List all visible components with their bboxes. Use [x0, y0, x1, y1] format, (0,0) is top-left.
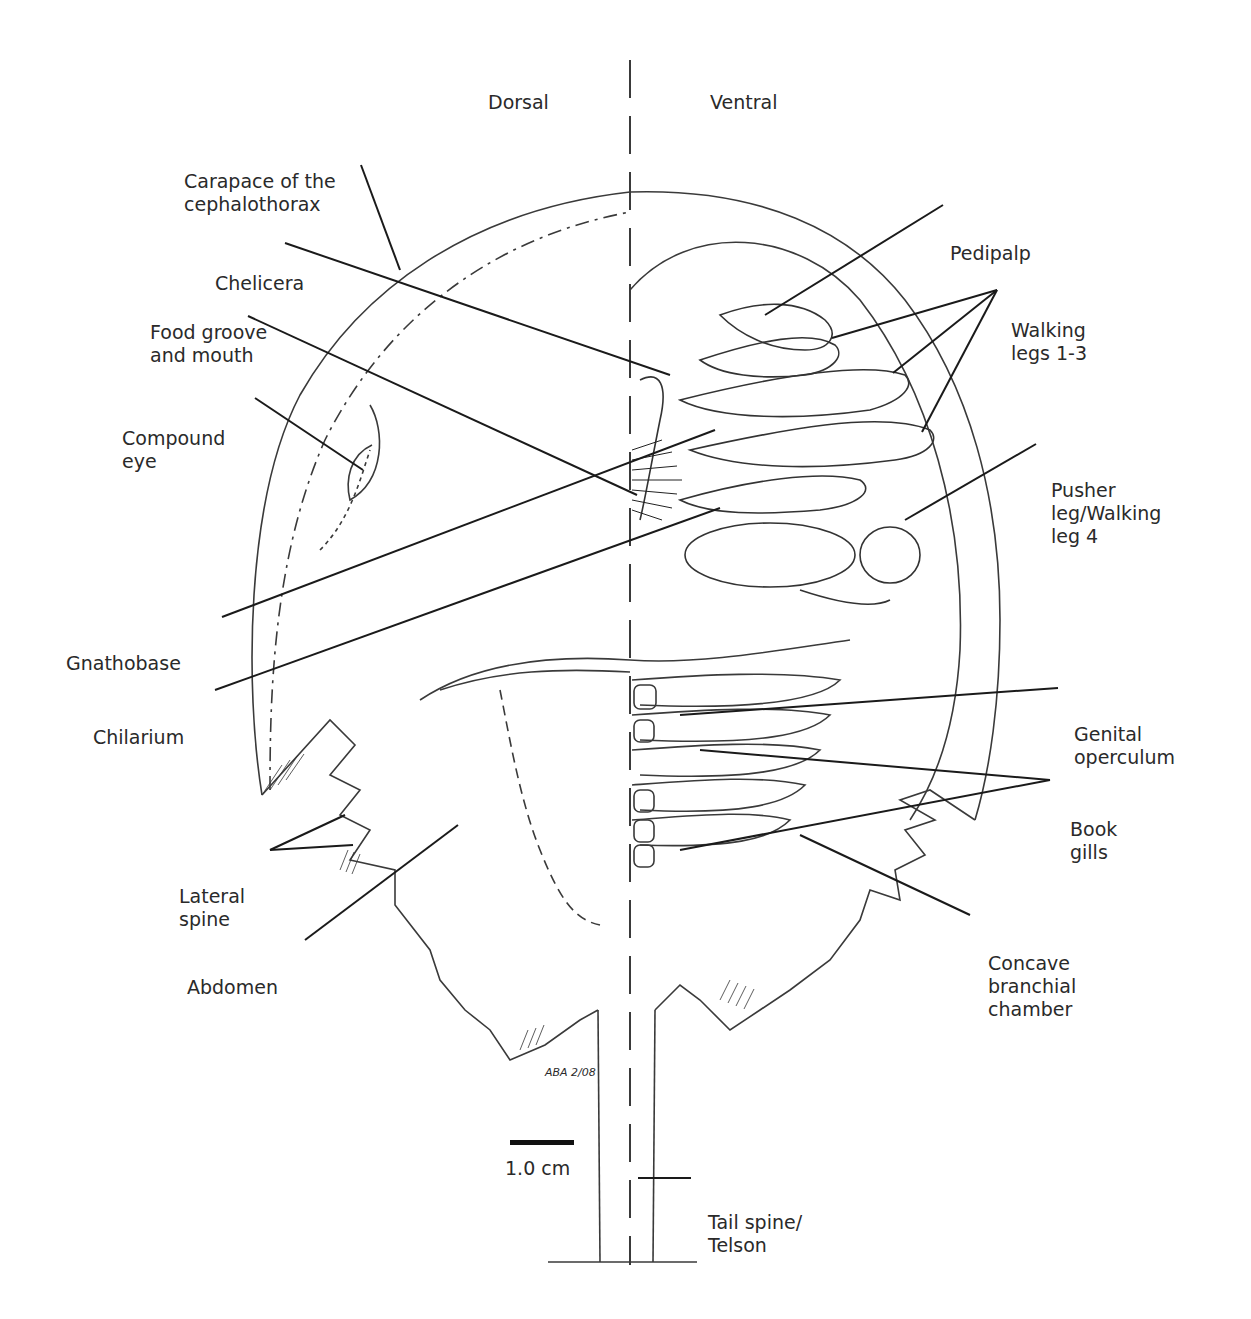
label-walking-legs: Walkinglegs 1-3: [1011, 273, 1087, 388]
leader-lines: [215, 165, 1058, 1178]
abdomen-left-edge: [262, 720, 598, 1060]
abdomen-right-edge: [655, 790, 975, 1030]
scale-bar: [510, 1140, 574, 1145]
label-book-gills: Bookgills: [1070, 772, 1117, 887]
label-food-groove-mouth: Food grooveand mouth: [150, 275, 267, 390]
label-branchial-chamber: Concavebranchialchamber: [988, 906, 1076, 1044]
label-pusher-leg: Pusherleg/Walkingleg 4: [1051, 433, 1161, 571]
label-compound-eye: Compoundeye: [122, 381, 225, 496]
label-dorsal: Dorsal: [488, 91, 549, 114]
label-abdomen: Abdomen: [187, 930, 278, 1022]
horseshoe-crab-diagram: Dorsal Ventral Carapace of thecephalotho…: [0, 0, 1251, 1319]
artist-signature: ABA 2/08: [545, 1067, 596, 1079]
scale-bar-label: 1.0 cm: [505, 1157, 570, 1180]
label-chilarium: Chilarium: [93, 680, 184, 772]
label-ventral: Ventral: [710, 91, 777, 114]
label-carapace: Carapace of thecephalothorax: [184, 124, 336, 239]
carapace-outline: [252, 192, 1000, 820]
label-telson: Tail spine/Telson: [708, 1165, 802, 1280]
